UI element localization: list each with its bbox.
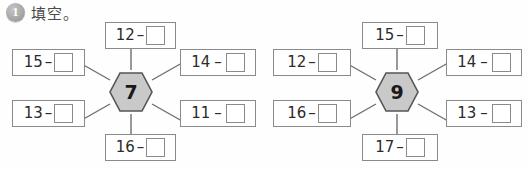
center-hexagon-right: 9 — [375, 70, 419, 114]
minus-sign-icon: – — [137, 28, 145, 43]
minus-sign-icon: – — [308, 106, 316, 121]
center-number-right: 9 — [375, 70, 419, 114]
answer-input-box[interactable] — [492, 104, 511, 123]
minus-sign-icon: – — [480, 55, 488, 70]
expression-card-upper-right-left-wheel[interactable]: 14 – — [180, 49, 256, 76]
minuend-value: 16 — [116, 140, 135, 155]
minuend-value: 14 — [457, 55, 476, 70]
expression-card-upper-right-right-wheel[interactable]: 14 – — [446, 49, 522, 76]
minus-sign-icon: – — [45, 55, 53, 70]
minuend-value: 14 — [191, 55, 210, 70]
expression-card-lower-right-left-wheel[interactable]: 11 – — [180, 100, 256, 127]
minus-sign-icon: – — [396, 140, 404, 155]
minus-sign-icon: – — [137, 140, 145, 155]
expression-card-lower-left-left-wheel[interactable]: 13 – — [12, 100, 85, 127]
answer-input-box[interactable] — [318, 53, 337, 72]
center-hexagon-left: 7 — [109, 70, 153, 114]
answer-input-box[interactable] — [54, 104, 73, 123]
answer-input-box[interactable] — [318, 104, 337, 123]
expression-card-bottom-right-wheel[interactable]: 17 – — [362, 134, 438, 161]
minuend-value: 17 — [375, 140, 394, 155]
minus-sign-icon: – — [214, 55, 222, 70]
expression-card-lower-right-right-wheel[interactable]: 13 – — [446, 100, 522, 127]
minuend-value: 15 — [24, 55, 43, 70]
expression-card-upper-left-left-wheel[interactable]: 15 – — [12, 49, 85, 76]
answer-input-box[interactable] — [406, 138, 425, 157]
minuend-value: 12 — [116, 28, 135, 43]
answer-input-box[interactable] — [226, 104, 245, 123]
expression-card-bottom-left-wheel[interactable]: 16 – — [105, 134, 176, 161]
minus-sign-icon: – — [396, 28, 404, 43]
expression-card-upper-left-right-wheel[interactable]: 12 – — [273, 49, 351, 76]
minus-sign-icon: – — [45, 106, 53, 121]
minus-sign-icon: – — [480, 106, 488, 121]
minus-sign-icon: – — [308, 55, 316, 70]
minuend-value: 13 — [457, 106, 476, 121]
minuend-value: 16 — [287, 106, 306, 121]
minus-sign-icon: – — [214, 106, 222, 121]
answer-input-box[interactable] — [146, 26, 165, 45]
minuend-value: 13 — [24, 106, 43, 121]
minuend-value: 12 — [287, 55, 306, 70]
answer-input-box[interactable] — [146, 138, 165, 157]
expression-card-lower-left-right-wheel[interactable]: 16 – — [273, 100, 351, 127]
expression-card-top-right-wheel[interactable]: 15 – — [362, 22, 438, 49]
answer-input-box[interactable] — [406, 26, 425, 45]
answer-input-box[interactable] — [226, 53, 245, 72]
exercise-number-badge: 1 — [6, 3, 25, 22]
minuend-value: 11 — [191, 106, 210, 121]
expression-card-top-left-wheel[interactable]: 12 – — [105, 22, 176, 49]
center-number-left: 7 — [109, 70, 153, 114]
number-wheel-right: 9 15 – 12 – 16 – 17 – 14 – 13 – — [266, 0, 524, 169]
minuend-value: 15 — [375, 28, 394, 43]
number-wheel-left: 7 12 – 15 – 13 – 16 – 14 – 11 – — [2, 0, 260, 169]
answer-input-box[interactable] — [492, 53, 511, 72]
exercise-header: 1 填空。 — [6, 2, 79, 23]
answer-input-box[interactable] — [54, 53, 73, 72]
exercise-instruction-text: 填空。 — [31, 2, 79, 23]
